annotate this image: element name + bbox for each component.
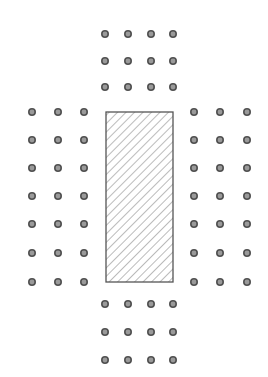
dot-marker <box>244 137 250 143</box>
dot-marker <box>148 84 154 90</box>
dot-marker <box>244 279 250 285</box>
dot-marker <box>81 279 87 285</box>
dot-marker <box>29 165 35 171</box>
dot-marker <box>125 84 131 90</box>
dot-marker <box>81 250 87 256</box>
dot-marker <box>191 193 197 199</box>
dot-marker <box>29 137 35 143</box>
dot-marker <box>191 221 197 227</box>
dot-marker <box>29 250 35 256</box>
dot-marker <box>148 31 154 37</box>
dot-marker <box>102 301 108 307</box>
dot-marker <box>102 357 108 363</box>
dot-marker <box>55 109 61 115</box>
dot-marker <box>217 279 223 285</box>
dot-marker <box>191 165 197 171</box>
dot-marker <box>125 301 131 307</box>
dot-marker <box>170 357 176 363</box>
dot-marker <box>81 109 87 115</box>
dot-marker <box>191 137 197 143</box>
dot-marker <box>170 301 176 307</box>
dot-marker <box>148 58 154 64</box>
dot-marker <box>217 165 223 171</box>
dot-marker <box>102 58 108 64</box>
dot-marker <box>125 58 131 64</box>
dot-marker <box>217 250 223 256</box>
dot-marker <box>217 193 223 199</box>
dot-marker <box>102 329 108 335</box>
dot-marker <box>170 329 176 335</box>
diagram-canvas <box>0 0 268 377</box>
dot-marker <box>29 221 35 227</box>
dot-marker <box>191 250 197 256</box>
dot-marker <box>55 165 61 171</box>
dot-marker <box>170 58 176 64</box>
dot-marker <box>125 329 131 335</box>
dot-marker <box>191 279 197 285</box>
dot-marker <box>55 250 61 256</box>
dot-marker <box>81 165 87 171</box>
dot-marker <box>244 109 250 115</box>
dot-marker <box>244 193 250 199</box>
dot-marker <box>217 109 223 115</box>
dot-marker <box>55 193 61 199</box>
dot-marker <box>148 301 154 307</box>
dot-marker <box>125 31 131 37</box>
dot-marker <box>217 137 223 143</box>
dot-marker <box>170 31 176 37</box>
dot-marker <box>81 137 87 143</box>
dot-marker <box>170 84 176 90</box>
dot-marker <box>29 279 35 285</box>
dot-marker <box>148 357 154 363</box>
dot-marker <box>81 193 87 199</box>
dot-marker <box>244 221 250 227</box>
dot-marker <box>217 221 223 227</box>
dot-marker <box>55 221 61 227</box>
dot-marker <box>55 137 61 143</box>
dot-marker <box>81 221 87 227</box>
dot-marker <box>244 250 250 256</box>
dot-marker <box>29 193 35 199</box>
dot-marker <box>191 109 197 115</box>
dot-marker <box>244 165 250 171</box>
hatched-rectangle <box>106 112 173 282</box>
dot-marker <box>148 329 154 335</box>
dot-marker <box>55 279 61 285</box>
dot-marker <box>125 357 131 363</box>
dot-marker <box>102 84 108 90</box>
dot-marker <box>102 31 108 37</box>
dot-marker <box>29 109 35 115</box>
